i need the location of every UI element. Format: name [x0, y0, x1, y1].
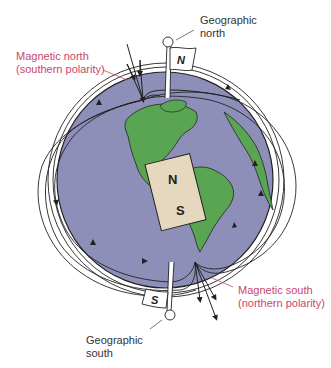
south-flag-letter: S	[151, 294, 159, 306]
north-flag-letter: N	[177, 54, 186, 66]
bar-magnet-south: S	[176, 203, 185, 218]
magnetic-north-label: Magnetic north (southern polarity)	[16, 50, 105, 76]
bar-magnet-north: N	[168, 172, 177, 187]
geographic-north-label: Geographic north	[200, 14, 257, 40]
magnetic-south-label: Magnetic south (northern polarity)	[238, 284, 325, 310]
earth-magnetic-field-diagram: N S	[0, 0, 331, 368]
geographic-south-label: Geographic south	[86, 334, 143, 360]
